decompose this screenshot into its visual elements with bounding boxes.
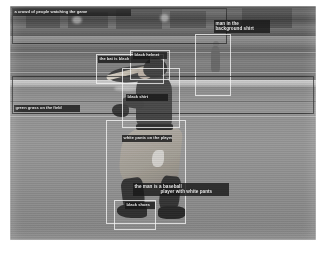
label-baseball-player[interactable]: the man is a baseball player with white … — [133, 183, 229, 196]
label-background-man[interactable]: man in the background shirt — [214, 20, 270, 33]
figure-page: a crowd of people watching the game man … — [0, 0, 326, 253]
label-line-2: background shirt — [216, 26, 254, 31]
label-crowd[interactable]: a crowd of people watching the game — [13, 9, 131, 16]
label-helmet[interactable]: black helmet — [133, 52, 167, 59]
label-pants[interactable]: white pants on the player — [122, 135, 172, 142]
label-shoes[interactable]: black shoes — [125, 202, 155, 209]
detection-image: a crowd of people watching the game man … — [10, 6, 316, 240]
label-shirt[interactable]: black shirt — [126, 94, 168, 101]
label-line-2: player with white pants — [135, 189, 213, 194]
label-grass[interactable]: green grass on the field — [14, 105, 80, 112]
